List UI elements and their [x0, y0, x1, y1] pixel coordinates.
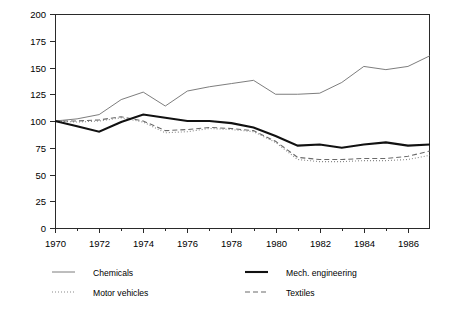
x-tick-label: 1982 [310, 238, 331, 249]
y-tick-label: 125 [30, 89, 46, 100]
x-tick-label: 1976 [177, 238, 198, 249]
y-tick-label: 75 [35, 143, 46, 154]
y-tick-label: 150 [30, 63, 46, 74]
legend-label-mech-engineering: Mech. engineering [286, 268, 357, 278]
line-chart-svg: 0255075100125150175200 19701972197419761… [0, 0, 453, 309]
y-axis-group: 0255075100125150175200 [30, 9, 55, 234]
y-tick-marks [50, 15, 55, 229]
plot-frame [55, 14, 430, 228]
y-tick-label: 0 [41, 223, 46, 234]
y-tick-label: 175 [30, 36, 46, 47]
legend-label-motor-vehicles: Motor vehicles [93, 288, 148, 298]
y-tick-label: 25 [35, 196, 46, 207]
x-tick-label: 1984 [354, 238, 375, 249]
x-tick-label: 1978 [221, 238, 242, 249]
x-tick-label: 1970 [45, 238, 66, 249]
x-tick-labels: 197019721974197619781980198219841986 [45, 238, 419, 249]
legend-label-chemicals: Chemicals [93, 268, 133, 278]
series-line-mech-engineering [55, 115, 430, 148]
x-axis-group: 197019721974197619781980198219841986 [45, 228, 430, 249]
x-tick-label: 1972 [89, 238, 110, 249]
x-tick-label: 1974 [133, 238, 154, 249]
x-tick-label: 1986 [398, 238, 419, 249]
y-tick-label: 100 [30, 116, 46, 127]
series-line-textiles [55, 117, 430, 160]
y-tick-label: 200 [30, 9, 46, 20]
x-tick-label: 1980 [266, 238, 287, 249]
y-tick-labels: 0255075100125150175200 [30, 9, 46, 234]
series-line-chemicals [55, 56, 430, 121]
legend-label-textiles: Textiles [286, 288, 315, 298]
chart-figure: 0255075100125150175200 19701972197419761… [0, 0, 453, 309]
legend: Chemicals Mech. engineering Motor vehicl… [52, 268, 357, 298]
y-tick-label: 50 [35, 170, 46, 181]
series-lines-group [55, 56, 430, 162]
